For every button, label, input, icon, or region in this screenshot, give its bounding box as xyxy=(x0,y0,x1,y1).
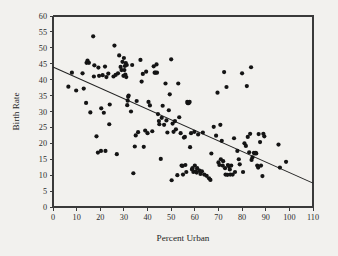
data-point xyxy=(208,178,212,182)
data-point xyxy=(174,127,178,131)
data-point xyxy=(165,130,169,134)
data-point xyxy=(214,134,218,138)
data-point xyxy=(183,135,187,139)
data-point xyxy=(150,129,154,133)
data-point xyxy=(284,160,288,164)
data-point xyxy=(127,93,131,97)
y-tick-label: 10 xyxy=(39,171,47,180)
x-tick-label: 20 xyxy=(96,213,104,222)
data-point xyxy=(108,102,112,106)
y-tick-label: 60 xyxy=(39,12,47,21)
data-point xyxy=(94,134,98,138)
data-point xyxy=(257,132,261,136)
data-point xyxy=(107,122,111,126)
data-point-group xyxy=(66,34,288,182)
data-point xyxy=(156,112,160,116)
data-point xyxy=(215,91,219,95)
data-point xyxy=(159,157,163,161)
y-tick-label: 25 xyxy=(39,123,47,132)
data-point xyxy=(122,56,126,60)
data-point xyxy=(117,53,121,57)
data-point xyxy=(162,123,166,127)
data-point xyxy=(188,100,192,104)
data-point xyxy=(163,81,167,85)
data-point xyxy=(145,131,149,135)
data-point xyxy=(173,119,177,123)
data-point xyxy=(258,140,262,144)
data-point xyxy=(88,110,92,114)
x-axis-title: Percent Urban xyxy=(157,233,210,243)
data-point xyxy=(209,151,213,155)
data-point xyxy=(176,81,180,85)
scatter-plot-canvas: 0102030405060708090100110051015202530354… xyxy=(0,0,338,256)
data-point xyxy=(74,88,78,92)
data-point xyxy=(201,130,205,134)
data-point xyxy=(232,136,236,140)
x-tick-label: 80 xyxy=(238,213,246,222)
data-point xyxy=(112,44,116,48)
data-point xyxy=(192,130,196,134)
data-point xyxy=(136,130,140,134)
scatter-plot-figure: 0102030405060708090100110051015202530354… xyxy=(0,0,338,256)
data-point xyxy=(125,63,129,67)
data-point xyxy=(245,84,249,88)
data-point xyxy=(122,68,126,72)
data-point xyxy=(92,74,96,78)
data-point xyxy=(238,162,242,166)
x-tick-label: 60 xyxy=(191,213,199,222)
data-point xyxy=(154,62,158,66)
data-point xyxy=(181,172,185,176)
data-point xyxy=(212,125,216,129)
y-tick-label: 40 xyxy=(39,76,47,85)
data-point xyxy=(167,108,171,112)
data-point xyxy=(276,143,280,147)
data-point xyxy=(130,63,134,67)
data-point xyxy=(103,149,107,153)
x-tick-label: 0 xyxy=(51,213,55,222)
data-point xyxy=(126,99,130,103)
data-point xyxy=(218,123,222,127)
data-point xyxy=(224,85,228,89)
y-tick-label: 0 xyxy=(43,203,47,212)
data-point xyxy=(140,79,144,83)
data-point xyxy=(244,144,248,148)
data-point xyxy=(138,58,142,62)
data-point xyxy=(129,109,133,113)
data-point xyxy=(155,71,159,75)
x-tick-label: 100 xyxy=(283,213,295,222)
data-point xyxy=(97,74,101,78)
data-point xyxy=(131,171,135,175)
y-tick-label: 30 xyxy=(39,108,47,117)
data-point xyxy=(196,132,200,136)
y-tick-label: 15 xyxy=(39,155,47,164)
data-point xyxy=(249,65,253,69)
data-point xyxy=(142,145,146,149)
data-point xyxy=(125,103,129,107)
data-point xyxy=(84,101,88,105)
data-point xyxy=(179,131,183,135)
data-point xyxy=(160,116,164,120)
y-tick-label: 20 xyxy=(39,139,47,148)
data-point xyxy=(241,170,245,174)
data-point xyxy=(177,115,181,119)
data-point xyxy=(229,164,233,168)
data-point xyxy=(157,122,161,126)
y-tick-label: 5 xyxy=(43,187,47,196)
data-point xyxy=(106,72,110,76)
data-point xyxy=(115,152,119,156)
data-point xyxy=(262,134,266,138)
data-point xyxy=(259,164,263,168)
data-point xyxy=(247,150,251,154)
x-tick-label: 10 xyxy=(73,213,81,222)
data-point xyxy=(222,70,226,74)
data-point xyxy=(135,99,139,103)
data-point xyxy=(233,170,237,174)
data-point xyxy=(70,71,74,75)
y-tick-label: 55 xyxy=(39,28,47,37)
data-point xyxy=(124,75,128,79)
y-tick-label: 45 xyxy=(39,60,47,69)
data-point xyxy=(228,167,232,171)
data-point xyxy=(99,106,103,110)
data-point xyxy=(99,149,103,153)
x-tick-label: 90 xyxy=(262,213,270,222)
